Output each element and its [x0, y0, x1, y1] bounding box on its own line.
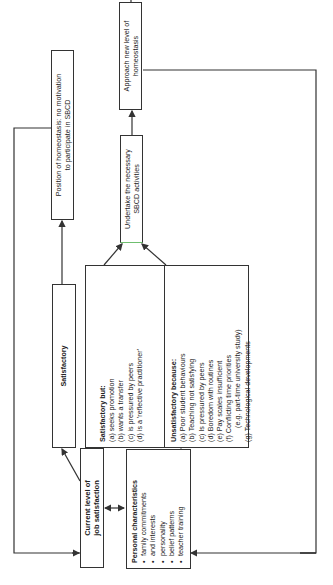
unsatisfactory-item: (f) Conflicting time priorities	[224, 271, 233, 442]
personal-item: personality	[158, 455, 167, 556]
undertake-line2: SBCD activities	[132, 164, 141, 214]
homeostasis-line1: Position of homeostasis: no motivation	[54, 74, 63, 197]
unsatisfactory-item: (b) Teaching not satisfying	[187, 271, 196, 442]
satisfactory-but-title: Satisfactory but:	[98, 271, 107, 442]
unsatisfactory-item: (e.g. part-time university study)	[233, 271, 242, 442]
satisfactory-but-item: (a) seeks promotion	[107, 271, 116, 442]
undertake-box: Undertake the necessary SBCD activities	[120, 135, 143, 243]
personal-item: and interests	[148, 455, 157, 556]
satisfactory-box: Satisfactory	[52, 284, 76, 448]
personal-item: family commitments	[139, 455, 148, 556]
unsatisfactory-item: (d) Boredom with routines	[206, 271, 215, 442]
approach-line1: Approach new level of	[122, 21, 131, 92]
satisfactory-but-box: Satisfactory but: (a) seeks promotion (b…	[85, 265, 165, 448]
unsatisfactory-item: (a) Poor student behaviours	[178, 271, 187, 442]
unsatisfactory-item: (c) Is pressured by peers	[197, 271, 206, 442]
satisfactory-but-item: (b) wants a transfer	[116, 271, 125, 442]
unsatisfactory-title: Unsatisfactory because:	[169, 271, 178, 442]
unsatisfactory-item: (e) Pay scales insufficient	[215, 271, 224, 442]
homeostasis-line2: to participate in SBCD	[63, 100, 72, 171]
satisfactory-title: Satisfactory	[59, 345, 68, 386]
personal-item: teacher training	[176, 455, 185, 556]
approach-line2: homeostasis	[131, 36, 140, 76]
approach-box: Approach new level of homeostasis	[119, 2, 142, 110]
homeostasis-box: Position of homeostasis: no motivation t…	[51, 50, 74, 220]
unsatisfactory-item: (g) Technological developments	[243, 271, 252, 442]
undertake-line1: Undertake the necessary	[123, 149, 132, 229]
current-level-line1: Current level of	[83, 480, 92, 536]
personal-characteristics-box: Personal characteristics family commitme…	[126, 449, 191, 569]
satisfactory-but-item: (d) is a 'reflective practitioner'	[135, 271, 144, 442]
personal-characteristics-title: Personal characteristics	[130, 455, 139, 563]
unsatisfactory-box: Unsatisfactory because: (a) Poor student…	[164, 265, 249, 448]
satisfactory-but-item: (c) is pressured by peers	[126, 271, 135, 442]
diagram-canvas: Current level of job satisfaction Person…	[0, 0, 333, 585]
current-level-box: Current level of job satisfaction	[80, 448, 104, 568]
personal-item: belief patterns	[167, 455, 176, 556]
current-level-line2: job satisfaction	[92, 480, 101, 536]
